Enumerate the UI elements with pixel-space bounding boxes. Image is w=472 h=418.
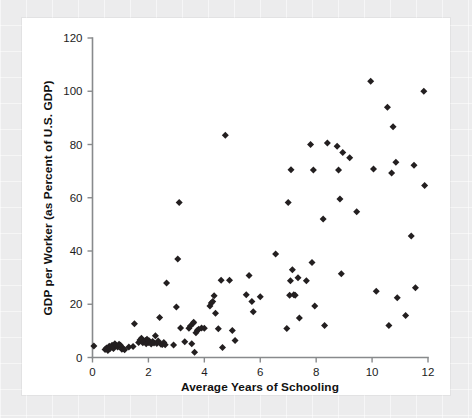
data-point [334,143,341,150]
data-point [250,308,257,315]
data-point [130,343,137,350]
data-point [288,166,295,173]
data-point [310,167,317,174]
data-point [170,341,177,348]
data-point [156,314,163,321]
data-point [163,279,170,286]
y-tick-label: 40 [70,245,83,257]
data-point [229,327,236,334]
data-point [218,277,225,284]
data-point [384,104,391,111]
data-point [408,233,415,240]
data-point [294,274,301,281]
data-point [222,132,229,139]
y-tick-label: 80 [70,139,83,151]
data-point [211,292,218,299]
data-point [311,303,318,310]
data-point [307,141,314,148]
data-point [174,255,181,262]
data-point [370,165,377,172]
data-point [131,320,138,327]
data-point [283,325,290,332]
data-point [248,298,255,305]
data-point [90,343,97,350]
data-point [324,139,331,146]
y-tick-label: 60 [70,192,83,204]
data-point [191,349,198,356]
x-tick-label: 6 [257,366,263,378]
y-axis-ticks: 020406080100120 [63,32,92,364]
data-point [212,310,219,317]
data-point [353,208,360,215]
x-tick-label: 2 [145,366,151,378]
data-point [402,312,409,319]
data-point [392,159,399,166]
data-point [336,196,343,203]
figure-root: 020406080100120 024681012 Average Years … [0,0,472,418]
x-axis-ticks: 024681012 [89,358,434,378]
data-point [257,293,264,300]
data-point [289,266,296,273]
data-point [176,199,183,206]
scatter-plot: 020406080100120 024681012 Average Years … [0,0,472,418]
data-point [367,78,374,85]
data-point [420,88,427,95]
data-point [181,338,188,345]
x-tick-label: 0 [89,366,95,378]
x-tick-label: 8 [313,366,319,378]
data-point [339,149,346,156]
y-tick-label: 100 [63,85,82,97]
data-point [346,154,353,161]
x-tick-label: 4 [201,366,208,378]
data-point [232,337,239,344]
data-point [373,288,380,295]
data-point [285,199,292,206]
y-tick-label: 120 [63,32,82,44]
data-point [320,216,327,223]
data-point [308,259,315,266]
data-point [296,315,303,322]
data-point [173,303,180,310]
data-point [287,277,294,284]
data-point [219,344,226,351]
data-point [321,322,328,329]
y-tick-label: 20 [70,298,83,310]
y-axis-title: GDP per Worker (as Percent of U.S. GDP) [41,81,55,316]
data-point [246,272,253,279]
data-point [272,250,279,257]
data-point [177,324,184,331]
data-point [188,340,195,347]
data-point [335,167,342,174]
data-point [385,322,392,329]
data-point [412,284,419,291]
x-tick-label: 12 [422,366,435,378]
axes-group: 020406080100120 024681012 [63,32,434,378]
data-point [421,182,428,189]
y-tick-label: 0 [76,352,82,364]
data-point [390,123,397,130]
data-point [215,325,222,332]
data-points-group [90,78,428,356]
data-point [411,162,418,169]
data-point [243,291,250,298]
data-point [303,277,310,284]
data-point [226,277,233,284]
data-point [338,270,345,277]
x-axis-title: Average Years of Schooling [181,380,339,394]
data-point [388,169,395,176]
data-point [394,294,401,301]
x-tick-label: 10 [366,366,379,378]
